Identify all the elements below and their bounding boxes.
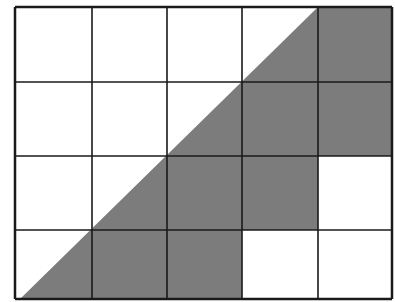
- shaded-cell: [318, 82, 392, 156]
- shaded-cell: [167, 156, 242, 230]
- shaded-grid-diagram: [0, 0, 395, 302]
- shaded-cell: [318, 7, 392, 82]
- shaded-cell: [242, 156, 318, 230]
- shaded-region: [20, 7, 392, 299]
- shaded-cell: [92, 230, 167, 299]
- shaded-cell: [167, 230, 242, 299]
- shaded-cell: [242, 82, 318, 156]
